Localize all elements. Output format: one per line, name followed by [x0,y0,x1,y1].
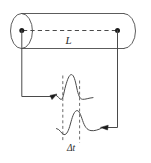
figure-root: L Δt [0,0,151,163]
left-signal-path [22,31,51,97]
length-measurement-group [19,28,120,33]
left-lead-polyline [22,31,51,97]
right-lead-polyline [108,31,118,128]
cylinder-right-cap [124,14,136,49]
time-interval-label: Δt [66,143,76,153]
first-pulse-trace [56,75,94,100]
right-lead-arrowhead [101,125,109,130]
first-pulse-curve [56,75,94,100]
length-label: L [64,34,71,46]
figure-canvas: L Δt [0,0,151,163]
right-signal-path [108,31,118,128]
